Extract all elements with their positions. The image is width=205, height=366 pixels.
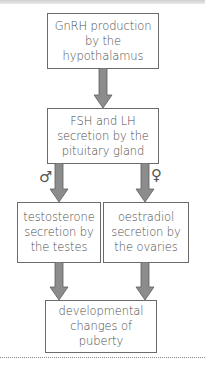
node-oestradiol-secretion: oestradiol secretion by the ovaries <box>103 202 189 263</box>
node-oestradiol-label: oestradiol secretion by the ovaries <box>111 210 181 255</box>
node-puberty-changes: developmental changes of puberty <box>45 300 157 353</box>
arrow-down-icon <box>49 262 69 301</box>
top-border-band <box>0 0 205 4</box>
node-gnrh-production: GnRH production by the hypothalamus <box>47 13 159 69</box>
node-fsh-lh-secretion: FSH and LH secretion by the pituitary gl… <box>47 108 159 164</box>
node-fsh-lh-label: FSH and LH secretion by the pituitary gl… <box>57 114 149 159</box>
arrow-down-icon <box>135 262 155 301</box>
male-symbol-icon: ♂ <box>39 170 52 185</box>
dotted-divider <box>0 357 205 358</box>
node-testosterone-label: testosterone secretion by the testes <box>23 210 94 255</box>
female-symbol-icon: ♀ <box>151 168 162 183</box>
arrow-down-icon <box>93 68 113 109</box>
node-puberty-label: developmental changes of puberty <box>59 304 144 349</box>
node-testosterone-secretion: testosterone secretion by the testes <box>17 202 101 263</box>
node-gnrh-label: GnRH production by the hypothalamus <box>48 19 158 64</box>
